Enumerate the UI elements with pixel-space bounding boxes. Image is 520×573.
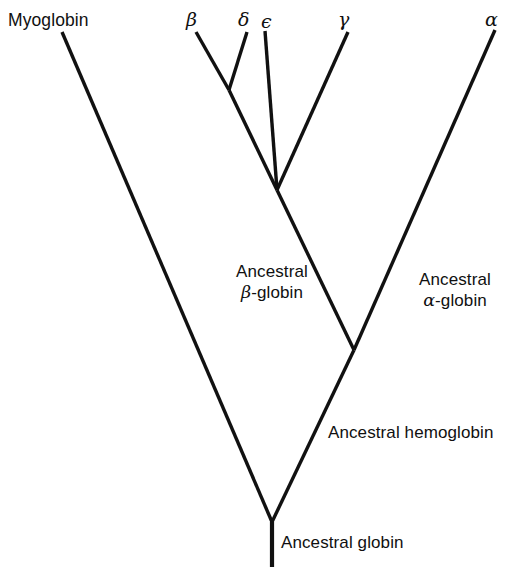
node-label-line: Ancestral (210, 262, 334, 282)
node-label-line: Ancestral hemoglobin (328, 423, 518, 443)
node-label-line: Ancestral (399, 270, 511, 290)
node-label-line: α-globin (399, 290, 511, 311)
node-label-ancestral-alpha-globin: Ancestralα-globin (399, 270, 511, 311)
node-label-ancestral-hemoglobin: Ancestral hemoglobin (328, 423, 518, 443)
node-label-ancestral-globin: Ancestral globin (281, 533, 441, 553)
tip-label-gamma: γ (338, 8, 349, 30)
node-label-line: Ancestral globin (281, 533, 441, 553)
branch-gamma (277, 32, 348, 190)
greek-glyph: α (423, 290, 435, 310)
branch-beta (196, 32, 229, 90)
tip-label-myoglobin: Myoglobin (8, 10, 89, 31)
tip-label-beta: β (186, 8, 197, 30)
phylogenetic-tree-figure: Myoglobinβδϵγα Ancestralβ-globinAncestra… (0, 0, 520, 573)
tip-label-epsilon: ϵ (261, 10, 272, 32)
tip-label-delta: δ (238, 8, 250, 30)
node-label-ancestral-beta-globin: Ancestralβ-globin (210, 262, 334, 303)
greek-glyph: β (241, 282, 251, 302)
node-label-line: β-globin (210, 282, 334, 303)
branch-delta (229, 32, 247, 90)
tip-label-alpha: α (485, 8, 498, 30)
